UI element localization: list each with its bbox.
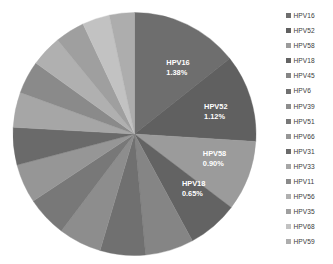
pie-slice-label-name: HPV18 [182,179,205,188]
legend-item-label: HPV6 [294,83,311,98]
legend-swatch-icon [286,209,291,214]
legend-item[interactable]: HPV59 [286,234,333,249]
pie-chart-svg: HPV161.38%HPV521.12%HPV580.90%HPV180.65% [12,10,257,258]
legend-swatch-icon [286,73,291,78]
legend-item[interactable]: HPV16 [286,8,333,23]
legend-item-label: HPV59 [294,234,315,249]
chart-legend: HPV16HPV52HPV58HPV18HPV45HPV6HPV39HPV51H… [286,8,333,258]
legend-item-label: HPV11 [294,174,315,189]
legend-swatch-icon [286,164,291,169]
legend-item[interactable]: HPV68 [286,219,333,234]
legend-item[interactable]: HPV58 [286,38,333,53]
legend-item-label: HPV31 [294,144,315,159]
legend-item-label: HPV45 [294,68,315,83]
legend-swatch-icon [286,43,291,48]
legend-item-label: HPV58 [294,38,315,53]
legend-item[interactable]: HPV18 [286,53,333,68]
legend-swatch-icon [286,179,291,184]
legend-item-label: HPV51 [294,114,315,129]
legend-item-label: HPV39 [294,99,315,114]
legend-item[interactable]: HPV52 [286,23,333,38]
legend-item-label: HPV35 [294,204,315,219]
legend-item[interactable]: HPV45 [286,68,333,83]
legend-item[interactable]: HPV33 [286,159,333,174]
legend-swatch-icon [286,28,291,33]
legend-item-label: HPV18 [294,53,315,68]
legend-item-label: HPV66 [294,129,315,144]
legend-item-label: HPV52 [294,23,315,38]
legend-swatch-icon [286,104,291,109]
legend-swatch-icon [286,119,291,124]
legend-item-label: HPV33 [294,159,315,174]
legend-swatch-icon [286,89,291,94]
legend-item[interactable]: HPV6 [286,83,333,98]
pie-slice-label-name: HPV52 [204,102,227,111]
pie-slice-label-value: 0.65% [182,189,203,198]
pie-chart-plot-area: HPV161.38%HPV521.12%HPV580.90%HPV180.65% [12,10,257,258]
pie-slice-label-value: 1.12% [204,112,225,121]
legend-item[interactable]: HPV66 [286,129,333,144]
legend-swatch-icon [286,13,291,18]
pie-slice-label-name: HPV58 [203,149,226,158]
pie-slice-label-value: 1.38% [166,68,187,77]
legend-item[interactable]: HPV39 [286,99,333,114]
legend-item[interactable]: HPV11 [286,174,333,189]
pie-slice-label-value: 0.90% [203,159,224,168]
legend-item[interactable]: HPV51 [286,114,333,129]
legend-swatch-icon [286,134,291,139]
legend-item[interactable]: HPV31 [286,144,333,159]
legend-swatch-icon [286,58,291,63]
legend-swatch-icon [286,194,291,199]
legend-swatch-icon [286,149,291,154]
legend-item[interactable]: HPV56 [286,189,333,204]
legend-swatch-icon [286,224,291,229]
pie-slice-label-name: HPV16 [166,58,189,67]
legend-item-label: HPV16 [294,8,315,23]
legend-item[interactable]: HPV35 [286,204,333,219]
legend-item-label: HPV56 [294,189,315,204]
pie-slice-group [13,13,256,256]
pie-chart-figure: HPV161.38%HPV521.12%HPV580.90%HPV180.65%… [0,0,333,264]
legend-swatch-icon [286,239,291,244]
legend-item-label: HPV68 [294,219,315,234]
